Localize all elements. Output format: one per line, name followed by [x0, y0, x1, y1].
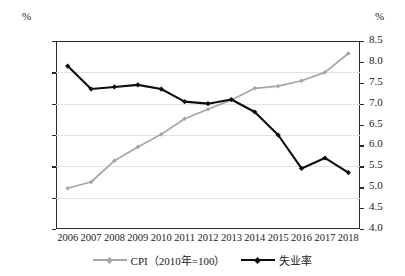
right-axis-tick-label: 8.0 [369, 54, 383, 66]
right-axis-tick-mark [360, 125, 364, 126]
gridline [56, 72, 360, 73]
left-axis-tick-mark [52, 166, 56, 167]
legend-label-unemployment: 失业率 [279, 252, 312, 268]
gridline [56, 166, 360, 167]
gridline [56, 104, 360, 105]
right-axis-tick-label: 6.5 [369, 117, 383, 129]
x-axis-tick-label: 2018 [328, 232, 368, 243]
gridline [56, 198, 360, 199]
right-axis-tick-mark [360, 83, 364, 84]
legend-item-cpi[interactable]: CPI（2010年=100） [93, 252, 226, 268]
plot-area [56, 41, 360, 229]
right-axis-tick-mark [360, 229, 364, 230]
right-axis-tick-mark [360, 208, 364, 209]
gridline [56, 135, 360, 136]
left-axis-tick-mark [52, 135, 56, 136]
right-axis-tick-label: 4.0 [369, 221, 383, 233]
right-axis-tick-mark [360, 166, 364, 167]
right-axis-tick-mark [360, 41, 364, 42]
left-axis-tick-mark [52, 104, 56, 105]
right-axis-tick-label: 6.0 [369, 137, 383, 149]
legend-marker-unemployment [241, 255, 275, 265]
right-axis-tick-label: 5.5 [369, 158, 383, 170]
chart-legend: CPI（2010年=100） 失业率 [0, 252, 405, 268]
right-axis-tick-label: 4.5 [369, 200, 383, 212]
left-axis-tick-mark [52, 41, 56, 42]
right-axis-tick-mark [360, 187, 364, 188]
right-axis-unit-label: % [375, 10, 384, 22]
left-axis-tick-mark [52, 198, 56, 199]
right-axis-tick-label: 8.5 [369, 33, 383, 45]
right-axis-tick-mark [360, 104, 364, 105]
right-axis-tick-mark [360, 145, 364, 146]
chart-container: % % 130120110100908070 8.58.07.57.06.56.… [0, 0, 405, 276]
right-axis-tick-label: 7.0 [369, 96, 383, 108]
legend-marker-cpi [93, 255, 127, 265]
right-axis-tick-mark [360, 62, 364, 63]
left-axis-tick-mark [52, 229, 56, 230]
legend-item-unemployment[interactable]: 失业率 [241, 252, 312, 268]
left-axis-unit-label: % [22, 10, 31, 22]
right-axis-tick-label: 7.5 [369, 75, 383, 87]
legend-label-cpi: CPI（2010年=100） [131, 252, 226, 268]
right-axis-tick-label: 5.0 [369, 179, 383, 191]
left-axis-tick-mark [52, 72, 56, 73]
